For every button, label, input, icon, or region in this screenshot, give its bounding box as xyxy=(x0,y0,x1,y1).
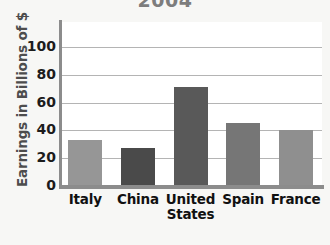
y-tick-label-60: 60 xyxy=(10,94,56,110)
y-axis-ticks: 020406080100 xyxy=(0,0,56,245)
x-category-label-france: France xyxy=(251,192,330,207)
bar-united-states[interactable] xyxy=(174,87,208,186)
x-axis-line xyxy=(59,185,324,189)
y-tick-label-100: 100 xyxy=(10,38,56,54)
y-tick-label-40: 40 xyxy=(10,121,56,137)
bar-italy[interactable] xyxy=(68,140,102,186)
x-category-line: France xyxy=(251,192,330,207)
y-axis-line xyxy=(59,20,62,189)
y-tick-label-20: 20 xyxy=(10,149,56,165)
bar-chart: 2004 Earnings in Billions of $ 020406080… xyxy=(0,0,330,245)
bar-spain[interactable] xyxy=(226,123,260,186)
bars-layer xyxy=(59,22,322,186)
y-tick-label-80: 80 xyxy=(10,66,56,82)
x-category-line: States xyxy=(146,207,236,222)
bar-china[interactable] xyxy=(121,148,155,186)
bar-france[interactable] xyxy=(279,130,313,186)
y-tick-label-0: 0 xyxy=(10,177,56,193)
